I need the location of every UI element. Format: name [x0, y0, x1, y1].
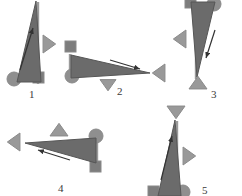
panel-label-5: 5 [202, 185, 208, 196]
figure-svg [0, 0, 242, 196]
panel-2-square-marker [65, 41, 76, 52]
figure-canvas: 12345 [0, 0, 242, 196]
panel-label-3: 3 [211, 89, 217, 100]
panel-label-1: 1 [29, 89, 35, 100]
panel-label-4: 4 [58, 183, 64, 194]
panel-5-square-marker [148, 186, 159, 196]
panel-label-2: 2 [117, 86, 123, 97]
